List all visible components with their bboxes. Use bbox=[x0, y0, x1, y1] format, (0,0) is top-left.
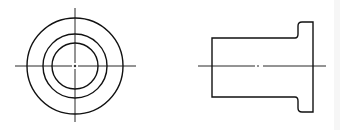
side-view bbox=[198, 22, 326, 112]
body-outline bbox=[212, 38, 295, 97]
end-view-centerlines bbox=[15, 8, 136, 122]
end-view bbox=[15, 8, 136, 122]
center-point bbox=[74, 65, 76, 67]
fillet-bottom bbox=[295, 97, 298, 101]
flange-outline bbox=[298, 22, 313, 112]
fillet-top bbox=[295, 34, 298, 38]
technical-drawing bbox=[0, 0, 340, 130]
